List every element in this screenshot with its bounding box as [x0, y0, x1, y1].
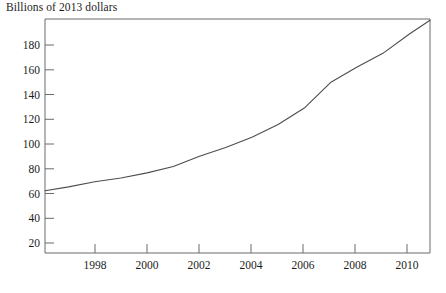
chart-figure: Billions of 2013 dollars 180 160 140 120…: [0, 0, 446, 293]
x-tick-label: 1998: [84, 259, 107, 271]
y-tick-label: 100: [23, 138, 41, 150]
y-tick-label: 20: [29, 237, 41, 249]
y-tick-label: 140: [23, 89, 41, 101]
y-tick-label: 160: [23, 64, 41, 76]
data-line-spending: [45, 20, 430, 190]
y-axis-ticks: [45, 45, 54, 243]
x-tick-label: 2010: [396, 259, 419, 271]
y-tick-label: 60: [29, 188, 41, 200]
y-tick-label: 80: [29, 163, 41, 175]
x-axis-ticks: [95, 244, 407, 253]
x-tick-label: 2008: [344, 259, 367, 271]
x-tick-label: 2002: [188, 259, 211, 271]
x-axis-tick-labels: 1998 2000 2002 2004 2006 2008 2010: [84, 259, 419, 271]
x-tick-label: 2006: [292, 259, 315, 271]
plot-frame: [45, 19, 430, 253]
x-tick-label: 2000: [136, 259, 159, 271]
y-tick-label: 180: [23, 39, 41, 51]
y-tick-label: 120: [23, 113, 41, 125]
line-chart-plot: 180 160 140 120 100 80 60 40 20 1998 200…: [0, 0, 446, 293]
x-tick-label: 2004: [240, 259, 263, 271]
y-axis-tick-labels: 180 160 140 120 100 80 60 40 20: [23, 39, 41, 249]
y-tick-label: 40: [29, 212, 41, 224]
